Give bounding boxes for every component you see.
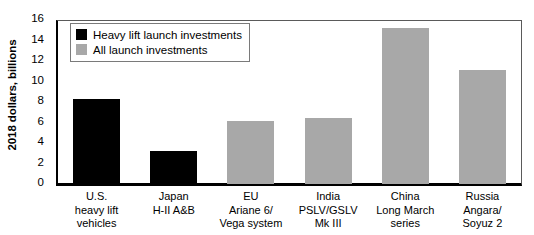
y-tick-label: 10 [31, 74, 44, 86]
x-axis-label-line: India [290, 190, 367, 204]
x-axis-label-line: Russia [444, 190, 521, 204]
x-axis-label-line: Ariane 6/ [212, 204, 289, 218]
y-tick-label: 14 [31, 33, 44, 45]
x-axis-label-line: Long March [367, 204, 444, 218]
x-axis-label-line: PSLV/GSLV [290, 204, 367, 218]
x-axis-label-line: U.S. [58, 190, 135, 204]
x-axis-label-line: heavy lift [58, 204, 135, 218]
y-tick-label: 0 [38, 176, 44, 188]
legend-swatch-icon [76, 44, 87, 55]
y-tick-label: 8 [38, 94, 44, 106]
bar[interactable] [150, 151, 197, 184]
x-axis-label: IndiaPSLV/GSLVMk III [290, 190, 367, 231]
legend-item[interactable]: Heavy lift launch investments [76, 27, 242, 42]
y-tick-label: 12 [31, 53, 44, 65]
bar-slot [459, 20, 506, 184]
y-tick-label: 6 [38, 115, 44, 127]
legend-swatch-icon [76, 29, 87, 40]
bar[interactable] [382, 28, 429, 184]
x-axis-labels: U.S.heavy liftvehiclesJapanH-II A&BEUAri… [58, 190, 521, 235]
x-axis-label-line: EU [212, 190, 289, 204]
bar-slot [305, 20, 352, 184]
y-axis-title-text: 2018 dollars, billions [6, 40, 18, 151]
x-axis-label-line: vehicles [58, 217, 135, 231]
legend: Heavy lift launch investmentsAll launch … [70, 23, 250, 62]
y-tick-label: 16 [31, 12, 44, 24]
x-axis-label-line: Japan [135, 190, 212, 204]
x-axis-label: EUAriane 6/Vega system [212, 190, 289, 231]
bar[interactable] [305, 118, 352, 184]
x-axis-label-line: series [367, 217, 444, 231]
bar[interactable] [459, 70, 506, 184]
x-axis-label: RussiaAngara/Soyuz 2 [444, 190, 521, 231]
bar[interactable] [227, 121, 274, 184]
x-axis-label-line: Mk III [290, 217, 367, 231]
x-axis-label: U.S.heavy liftvehicles [58, 190, 135, 231]
x-axis-label-line: Soyuz 2 [444, 217, 521, 231]
x-axis-label-line: China [367, 190, 444, 204]
x-axis-label-line: Angara/ [444, 204, 521, 218]
x-axis-label: ChinaLong Marchseries [367, 190, 444, 231]
x-axis-label: JapanH-II A&B [135, 190, 212, 217]
y-tick-label: 2 [38, 156, 44, 168]
legend-item-label: Heavy lift launch investments [93, 29, 242, 41]
x-axis-label-line: Vega system [212, 217, 289, 231]
bar[interactable] [73, 99, 120, 184]
bar-slot [382, 20, 429, 184]
x-axis-label-line: H-II A&B [135, 204, 212, 218]
y-tick-label: 4 [38, 135, 44, 147]
legend-item-label: All launch investments [93, 44, 207, 56]
y-axis-title: 2018 dollars, billions [2, 0, 22, 190]
bar-chart: 2018 dollars, billions 0246810121416 U.S… [0, 0, 534, 235]
legend-item[interactable]: All launch investments [76, 42, 242, 57]
